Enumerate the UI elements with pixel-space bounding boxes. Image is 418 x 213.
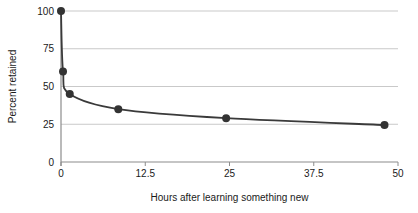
data-point-0	[57, 7, 65, 15]
data-point-5	[381, 121, 389, 129]
x-tick-label-4: 50	[392, 168, 404, 179]
data-point-1	[59, 67, 67, 75]
data-point-3	[114, 105, 122, 113]
chart-background	[0, 0, 418, 213]
y-tick-label-3: 75	[43, 43, 55, 54]
y-tick-label-0: 0	[48, 157, 54, 168]
x-tick-label-1: 12.5	[136, 168, 156, 179]
chart-container: 012.52537.550 0255075100 Hours after lea…	[0, 0, 418, 213]
forgetting-curve-chart: 012.52537.550 0255075100 Hours after lea…	[0, 0, 418, 213]
data-point-4	[222, 114, 230, 122]
x-tick-label-2: 25	[224, 168, 236, 179]
y-axis-title: Percent retained	[7, 50, 18, 123]
data-point-2	[66, 90, 74, 98]
y-tick-label-1: 25	[43, 119, 55, 130]
x-axis-title: Hours after learning something new	[151, 192, 310, 203]
x-tick-label-3: 37.5	[304, 168, 324, 179]
y-tick-label-4: 100	[37, 6, 54, 17]
y-tick-label-2: 50	[43, 81, 55, 92]
x-tick-label-0: 0	[58, 168, 64, 179]
